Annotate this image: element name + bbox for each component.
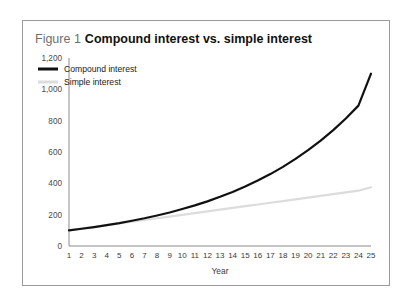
x-axis-tick-label: 1 <box>67 251 72 260</box>
x-axis-tick-label: 10 <box>178 251 187 260</box>
chart-plot: 02004006008001,0001,200 1234567891011121… <box>23 21 391 287</box>
chart-legend: Compound interestSimple interest <box>38 64 137 87</box>
x-axis-tick-label: 3 <box>92 251 97 260</box>
legend-label: Compound interest <box>64 64 137 74</box>
y-axis-tick-label: 1,000 <box>42 85 63 94</box>
y-axis-tick-label: 1,200 <box>42 54 63 63</box>
x-axis-tick-label: 16 <box>253 251 262 260</box>
x-axis-tick-label: 13 <box>216 251 225 260</box>
x-axis-tick-label: 14 <box>228 251 237 260</box>
y-axis-tick-label: 800 <box>48 117 62 126</box>
x-axis-tick-label: 22 <box>329 251 338 260</box>
x-axis-tick-label: 6 <box>130 251 135 260</box>
legend-label: Simple interest <box>64 77 121 87</box>
x-axis-tick-labels: 1234567891011121314151617181920212223242… <box>67 251 376 260</box>
y-axis-tick-labels: 02004006008001,0001,200 <box>42 54 63 251</box>
x-axis-tick-label: 11 <box>191 251 200 260</box>
x-axis-tick-label: 2 <box>79 251 84 260</box>
x-axis-tick-label: 24 <box>354 251 363 260</box>
x-axis-tick-label: 18 <box>278 251 287 260</box>
x-axis-tick-label: 17 <box>266 251 275 260</box>
x-axis-tick-label: 15 <box>241 251 250 260</box>
y-axis-tick-label: 600 <box>48 148 62 157</box>
chart-series-group <box>69 74 371 231</box>
x-axis-title: Year <box>212 266 229 276</box>
y-axis-tick-label: 400 <box>48 179 62 188</box>
x-axis-tick-label: 21 <box>316 251 325 260</box>
x-axis-tick-label: 9 <box>167 251 172 260</box>
x-axis-tick-label: 4 <box>105 251 110 260</box>
x-axis-tick-label: 8 <box>155 251 160 260</box>
x-axis-tick-label: 25 <box>367 251 376 260</box>
x-axis-tick-label: 12 <box>203 251 212 260</box>
x-axis-tick-label: 20 <box>304 251 313 260</box>
y-axis-tick-label: 200 <box>48 211 62 220</box>
x-axis-tick-label: 23 <box>341 251 350 260</box>
series-line <box>69 74 371 231</box>
x-axis-tick-label: 19 <box>291 251 300 260</box>
figure-frame: Figure 1Compound interest vs. simple int… <box>22 20 390 286</box>
x-axis-tick-label: 5 <box>117 251 122 260</box>
y-axis-tick-label: 0 <box>57 242 62 251</box>
x-axis-tick-label: 7 <box>142 251 147 260</box>
